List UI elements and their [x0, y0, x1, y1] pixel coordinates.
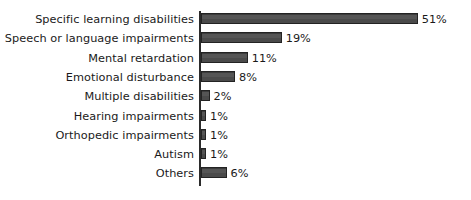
bar-chart: Specific learning disabilities51%Speech …: [0, 0, 471, 200]
bar-row: Speech or language impairments19%: [0, 29, 471, 48]
bar-row: Others6%: [0, 164, 471, 183]
category-label: Hearing impairments: [74, 107, 194, 126]
bar-row: Mental retardation11%: [0, 49, 471, 68]
plot-area: Specific learning disabilities51%Speech …: [0, 0, 471, 200]
bar: [201, 129, 206, 140]
bar-row: Orthopedic impairments1%: [0, 126, 471, 145]
bar-row: Hearing impairments1%: [0, 107, 471, 126]
value-label: 1%: [210, 126, 228, 145]
bar-row: Multiple disabilities2%: [0, 87, 471, 106]
bar: [201, 52, 248, 63]
category-label: Orthopedic impairments: [55, 126, 194, 145]
bar: [201, 90, 210, 101]
value-label: 6%: [231, 164, 249, 183]
bar-row: Emotional disturbance8%: [0, 68, 471, 87]
value-label: 11%: [252, 49, 277, 68]
category-label: Emotional disturbance: [66, 68, 194, 87]
value-label: 8%: [239, 68, 257, 87]
bar-row: Autism1%: [0, 145, 471, 164]
value-label: 51%: [422, 10, 447, 29]
value-label: 19%: [286, 29, 311, 48]
category-label: Multiple disabilities: [84, 87, 194, 106]
category-label: Speech or language impairments: [5, 29, 194, 48]
value-label: 2%: [214, 87, 232, 106]
bar: [201, 167, 227, 178]
bar: [201, 32, 282, 43]
category-label: Others: [156, 164, 194, 183]
bar: [201, 13, 418, 24]
bar-row: Specific learning disabilities51%: [0, 10, 471, 29]
bar: [201, 148, 206, 159]
value-label: 1%: [210, 145, 228, 164]
category-label: Autism: [154, 145, 194, 164]
bar: [201, 110, 206, 121]
value-label: 1%: [210, 107, 228, 126]
category-label: Mental retardation: [88, 49, 194, 68]
bar: [201, 71, 235, 82]
category-label: Specific learning disabilities: [35, 10, 194, 29]
